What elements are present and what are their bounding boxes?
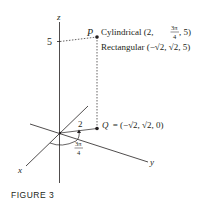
point-q-coords: = (−√2, √2, 0) xyxy=(113,120,164,130)
rectangular-label: Rectangular (−√2, √2, 5) xyxy=(101,42,190,52)
origin-dot xyxy=(59,132,61,134)
point-p-dot xyxy=(95,35,99,39)
angle-arrowhead xyxy=(77,130,81,134)
cylindrical-label: Cylindrical (2, xyxy=(101,27,154,37)
figure-3: z 5 x y P Cylindrical (2, 3π 4 , 5) Rect… xyxy=(0,0,213,201)
point-q-dot xyxy=(95,127,99,131)
figure-caption: FIGURE 3 xyxy=(11,190,54,200)
z-tick-label: 5 xyxy=(47,36,52,47)
x-axis-label: x xyxy=(17,165,22,175)
angle-label-num: 3π xyxy=(75,140,82,147)
point-p-label: P xyxy=(86,27,93,38)
cylindrical-coordinates-diagram: z 5 x y P Cylindrical (2, 3π 4 , 5) Rect… xyxy=(0,0,213,201)
cylindrical-frac-num: 3π xyxy=(171,24,178,31)
point-q-label: Q = (−√2, √2, 0) xyxy=(102,120,164,130)
radius-label: 2 xyxy=(78,119,83,129)
z-axis-label: z xyxy=(56,12,61,22)
angle-label-den: 4 xyxy=(77,149,81,156)
cylindrical-prefix: Cylindrical (2, xyxy=(101,27,154,37)
cylindrical-suffix: , 5) xyxy=(179,27,191,37)
cylindrical-frac-den: 4 xyxy=(173,33,177,40)
point-q-name: Q xyxy=(102,120,109,130)
y-axis-label: y xyxy=(149,157,154,167)
